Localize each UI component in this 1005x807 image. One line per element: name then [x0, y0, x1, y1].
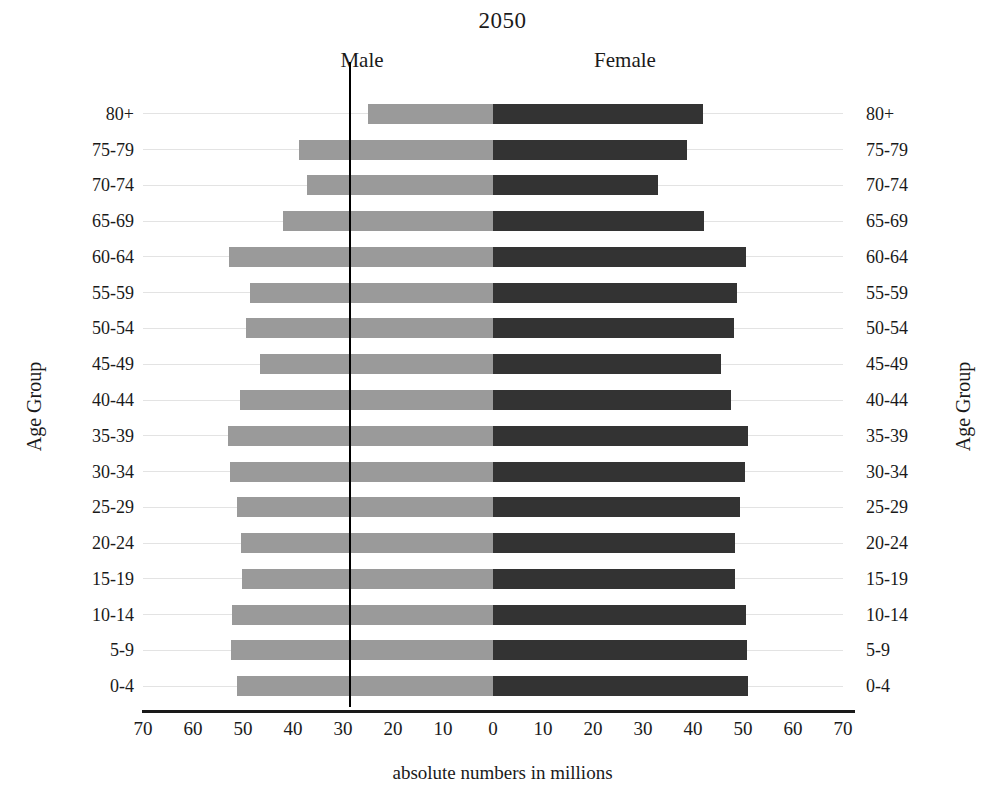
- y-axis-tick-left: 10-14: [42, 605, 134, 625]
- y-axis-tick-right: 50-54: [866, 318, 958, 338]
- bar-male: [299, 140, 493, 160]
- bar-male: [250, 283, 493, 303]
- bar-female: [493, 247, 746, 267]
- y-axis-tick-right: 25-29: [866, 497, 958, 517]
- bar-male: [242, 569, 493, 589]
- x-axis-tick: 60: [773, 718, 813, 740]
- y-axis-tick-right: 80+: [866, 104, 958, 124]
- y-axis-tick-right: 20-24: [866, 533, 958, 553]
- zero-axis-line: [349, 62, 351, 707]
- bar-male: [240, 390, 493, 410]
- pyramid-row: [143, 354, 843, 374]
- y-axis-tick-right: 35-39: [866, 426, 958, 446]
- pyramid-row: [143, 497, 843, 517]
- x-axis-tick: 20: [373, 718, 413, 740]
- bar-male: [368, 104, 493, 124]
- y-axis-tick-left: 45-49: [42, 354, 134, 374]
- y-axis-tick-left: 20-24: [42, 533, 134, 553]
- bar-male: [231, 640, 493, 660]
- pyramid-row: [143, 247, 843, 267]
- x-axis-tick: 10: [423, 718, 463, 740]
- bar-female: [493, 462, 745, 482]
- y-axis-tick-left: 25-29: [42, 497, 134, 517]
- x-axis-title: absolute numbers in millions: [0, 762, 1005, 784]
- chart-title: 2050: [0, 8, 1005, 34]
- y-axis-tick-left: 40-44: [42, 390, 134, 410]
- pyramid-row: [143, 569, 843, 589]
- x-axis-tick: 40: [273, 718, 313, 740]
- bar-male: [237, 676, 493, 696]
- bar-female: [493, 318, 734, 338]
- bar-female: [493, 533, 735, 553]
- y-axis-tick-left: 30-34: [42, 462, 134, 482]
- bar-female: [493, 104, 703, 124]
- y-axis-tick-right: 65-69: [866, 211, 958, 231]
- bar-male: [232, 605, 493, 625]
- pyramid-row: [143, 605, 843, 625]
- y-axis-tick-left: 35-39: [42, 426, 134, 446]
- bar-female: [493, 569, 735, 589]
- y-axis-tick-left: 0-4: [42, 676, 134, 696]
- bar-female: [493, 211, 704, 231]
- x-axis-tick: 70: [123, 718, 163, 740]
- x-axis-tick: 0: [473, 718, 513, 740]
- x-axis-tick: 40: [673, 718, 713, 740]
- y-axis-tick-left: 50-54: [42, 318, 134, 338]
- bar-male: [260, 354, 493, 374]
- bar-female: [493, 640, 747, 660]
- y-axis-tick-right: 5-9: [866, 640, 958, 660]
- bar-male: [229, 247, 493, 267]
- y-axis-tick-left: 5-9: [42, 640, 134, 660]
- pyramid-row: [143, 104, 843, 124]
- x-axis-tick: 70: [823, 718, 863, 740]
- y-axis-tick-right: 60-64: [866, 247, 958, 267]
- pyramid-row: [143, 175, 843, 195]
- bar-female: [493, 497, 740, 517]
- bar-male: [228, 426, 493, 446]
- bar-female: [493, 175, 658, 195]
- y-axis-tick-right: 15-19: [866, 569, 958, 589]
- pyramid-row: [143, 211, 843, 231]
- bar-male: [307, 175, 493, 195]
- bar-female: [493, 426, 748, 446]
- x-axis-tick: 50: [723, 718, 763, 740]
- y-axis-tick-left: 65-69: [42, 211, 134, 231]
- y-axis-tick-left: 55-59: [42, 283, 134, 303]
- bar-male: [283, 211, 493, 231]
- x-axis-line: [142, 710, 855, 713]
- y-axis-tick-left: 70-74: [42, 175, 134, 195]
- pyramid-row: [143, 640, 843, 660]
- y-axis-tick-right: 30-34: [866, 462, 958, 482]
- pyramid-row: [143, 462, 843, 482]
- x-axis-tick: 50: [223, 718, 263, 740]
- population-pyramid-chart: 2050 Male Female Age Group Age Group abs…: [0, 0, 1005, 807]
- y-axis-tick-right: 10-14: [866, 605, 958, 625]
- pyramid-row: [143, 676, 843, 696]
- x-axis-tick: 10: [523, 718, 563, 740]
- pyramid-row: [143, 318, 843, 338]
- y-axis-tick-left: 60-64: [42, 247, 134, 267]
- y-axis-tick-left: 15-19: [42, 569, 134, 589]
- y-axis-tick-left: 75-79: [42, 140, 134, 160]
- series-label-female: Female: [545, 48, 705, 73]
- x-axis-tick: 60: [173, 718, 213, 740]
- y-axis-tick-left: 80+: [42, 104, 134, 124]
- pyramid-row: [143, 390, 843, 410]
- x-axis-tick: 30: [623, 718, 663, 740]
- bar-male: [230, 462, 493, 482]
- bar-female: [493, 605, 746, 625]
- bar-female: [493, 140, 687, 160]
- y-axis-tick-right: 55-59: [866, 283, 958, 303]
- x-axis-tick: 30: [323, 718, 363, 740]
- bar-female: [493, 354, 721, 374]
- bar-male: [237, 497, 493, 517]
- x-axis-tick: 20: [573, 718, 613, 740]
- y-axis-tick-right: 0-4: [866, 676, 958, 696]
- pyramid-row: [143, 533, 843, 553]
- bar-female: [493, 390, 731, 410]
- y-axis-tick-right: 40-44: [866, 390, 958, 410]
- pyramid-row: [143, 283, 843, 303]
- pyramid-row: [143, 426, 843, 446]
- pyramid-row: [143, 140, 843, 160]
- plot-area: [143, 96, 843, 704]
